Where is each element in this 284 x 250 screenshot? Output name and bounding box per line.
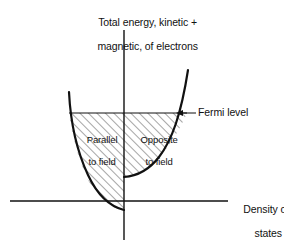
y-axis-title-line1: Total energy, kinetic +: [98, 16, 197, 28]
parallel-to-field-label-line1: Parallel: [87, 134, 118, 145]
parallel-to-field-label-line2: to field: [88, 156, 115, 167]
physics-diagram-figure: Total energy, kinetic + magnetic, of ele…: [0, 0, 284, 250]
x-axis-title-line2: states: [255, 227, 282, 239]
y-axis-title: Total energy, kinetic + magnetic, of ele…: [0, 4, 284, 64]
opposite-to-field-label-line2: to field: [145, 156, 172, 167]
opposite-to-field-label-line1: Opposite: [140, 134, 177, 145]
y-axis-title-line2: magnetic, of electrons: [97, 40, 198, 52]
x-axis-title-line1: Density of: [243, 203, 284, 215]
x-axis-title: Density of states: [232, 191, 282, 250]
fermi-level-label: Fermi level: [198, 106, 248, 118]
parallel-to-field-label: Parallel to field: [73, 124, 121, 179]
opposite-to-field-label: Opposite to field: [128, 124, 180, 179]
